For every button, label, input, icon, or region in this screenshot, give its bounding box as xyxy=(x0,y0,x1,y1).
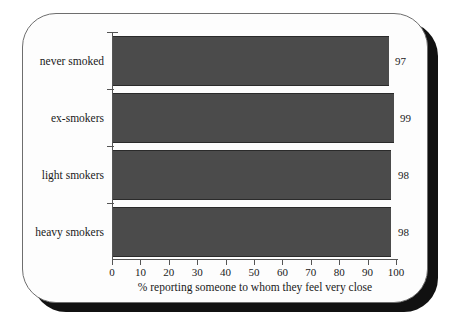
y-axis-tick xyxy=(107,146,114,147)
x-axis-tick xyxy=(169,259,170,265)
x-axis-tick xyxy=(368,259,369,265)
x-axis-line xyxy=(112,259,398,260)
x-tick-label: 100 xyxy=(388,266,405,278)
x-axis-tick xyxy=(112,259,113,265)
x-tick-label: 80 xyxy=(334,266,345,278)
x-axis-tick xyxy=(396,259,397,265)
x-tick-label: 20 xyxy=(163,266,174,278)
x-axis-tick xyxy=(226,259,227,265)
bar-value-label: 97 xyxy=(395,55,406,67)
bar-light-smokers xyxy=(113,150,391,200)
x-axis-title: % reporting someone to whom they feel ve… xyxy=(112,281,398,293)
bar-value-label: 98 xyxy=(398,226,409,238)
x-axis-tick xyxy=(254,259,255,265)
bar-heavy-smokers xyxy=(113,207,391,257)
category-label-never-smoked: never smoked xyxy=(40,55,104,67)
x-axis-tick xyxy=(282,259,283,265)
y-axis-tick xyxy=(107,203,114,204)
category-label-heavy-smokers: heavy smokers xyxy=(35,226,104,238)
bar-chart: 97 99 98 98 never smoked ex-smokers ligh… xyxy=(23,14,428,303)
category-label-ex-smokers: ex-smokers xyxy=(51,112,104,124)
x-axis-tick xyxy=(339,259,340,265)
x-axis-tick xyxy=(140,259,141,265)
x-tick-label: 90 xyxy=(362,266,373,278)
x-tick-label: 60 xyxy=(277,266,288,278)
chart-card: 97 99 98 98 never smoked ex-smokers ligh… xyxy=(22,13,428,303)
x-tick-label: 10 xyxy=(135,266,146,278)
x-tick-label: 70 xyxy=(305,266,316,278)
y-axis-tick xyxy=(107,89,114,90)
bar-value-label: 99 xyxy=(400,112,411,124)
category-label-light-smokers: light smokers xyxy=(42,169,104,181)
bar-value-label: 98 xyxy=(398,169,409,181)
x-axis-tick xyxy=(197,259,198,265)
x-axis-tick xyxy=(311,259,312,265)
x-tick-label: 40 xyxy=(220,266,231,278)
x-tick-label: 50 xyxy=(249,266,260,278)
bar-ex-smokers xyxy=(113,93,394,143)
x-tick-label: 0 xyxy=(109,266,115,278)
x-tick-label: 30 xyxy=(192,266,203,278)
bar-never-smoked xyxy=(113,36,389,86)
